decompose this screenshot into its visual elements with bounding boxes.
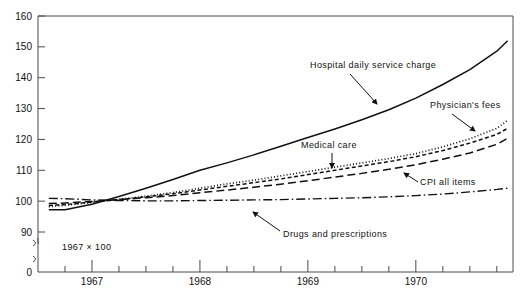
y-tick-label: 150 — [15, 41, 32, 52]
annotation-label-drugs-and-prescriptions: Drugs and prescriptions — [283, 229, 387, 239]
chart-background — [0, 0, 531, 299]
x-tick-label: 1970 — [405, 276, 428, 287]
x-tick-label: 1969 — [297, 276, 320, 287]
y-tick-label: 130 — [15, 103, 32, 114]
annotation-label-hospital-daily-service-charge: Hospital daily service charge — [310, 60, 436, 70]
y-tick-label: 110 — [16, 165, 32, 176]
y-tick-label-zero: 0 — [26, 267, 32, 278]
y-tick-label: 100 — [15, 196, 32, 207]
chart-container: 901001101201301401501600 196719681969197… — [0, 0, 531, 299]
medical-care-price-index-line-chart: 901001101201301401501600 196719681969197… — [0, 0, 531, 299]
y-tick-label: 90 — [21, 227, 33, 238]
annotation-label-physician-s-fees: Physician's fees — [430, 100, 501, 110]
base-year-note-text: 1967 × 100 — [62, 242, 111, 252]
annotation-label-medical-care: Medical care — [301, 140, 357, 150]
x-tick-label: 1967 — [81, 276, 104, 287]
x-tick-label: 1968 — [189, 276, 212, 287]
annotation-label-cpi-all-items: CPI all items — [420, 177, 476, 187]
base-year-note: 1967 × 100 — [62, 242, 111, 252]
y-tick-label: 120 — [15, 134, 32, 145]
y-tick-label: 140 — [15, 72, 32, 83]
y-tick-label: 160 — [15, 11, 32, 22]
